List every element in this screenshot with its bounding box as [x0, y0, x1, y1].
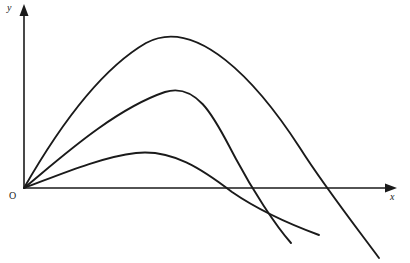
trajectory-curve-steep — [24, 37, 379, 258]
y-axis-label: y — [7, 3, 11, 13]
trajectory-plot-canvas — [0, 0, 410, 263]
trajectory-curve-medium — [24, 90, 291, 243]
y-axis — [20, 4, 29, 188]
projectile-trajectory-figure: y x O — [0, 0, 410, 263]
x-axis — [24, 184, 397, 193]
y-axis-arrowhead-icon — [20, 4, 29, 16]
x-axis-label: x — [390, 192, 394, 202]
origin-label: O — [9, 191, 16, 201]
trajectory-curves — [24, 37, 379, 258]
